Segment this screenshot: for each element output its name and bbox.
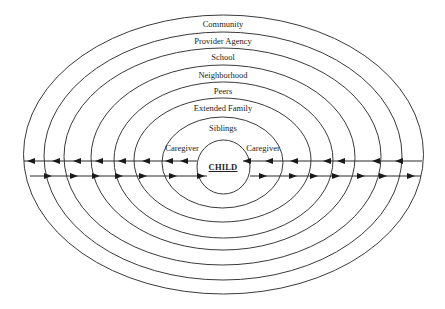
arrow-right-icon (379, 173, 387, 179)
arrow-right-icon (259, 173, 267, 179)
arrow-right-icon (289, 173, 297, 179)
arrow-left-icon (323, 158, 331, 164)
arrow-right-icon (407, 173, 415, 179)
arrow-left-icon (290, 158, 298, 164)
label-neighborhood: Neighborhood (198, 71, 247, 80)
arrow-left-icon (265, 158, 273, 164)
label-peers: Peers (214, 87, 232, 96)
arrow-right-icon (357, 173, 365, 179)
arrow-left-icon (95, 158, 103, 164)
arrow-left-icon (27, 158, 35, 164)
arrow-left-icon (395, 158, 403, 164)
arrow-right-icon (44, 173, 52, 179)
flow-left-inward (24, 158, 197, 164)
arrow-left-icon (243, 158, 251, 164)
arrow-left-icon (165, 158, 173, 164)
arrow-right-icon (115, 173, 123, 179)
arrow-left-icon (73, 158, 81, 164)
flow-left-outward (30, 173, 207, 179)
arrow-left-icon (337, 158, 345, 164)
arrow-right-icon (92, 173, 100, 179)
label-caregiver-right: Caregiver (246, 144, 280, 153)
label-child: CHILD (209, 163, 238, 172)
ring-neighborhood (64, 48, 381, 265)
arrow-left-icon (372, 158, 380, 164)
arrow-right-icon (310, 173, 318, 179)
flow-right-outward (250, 173, 421, 179)
arrow-right-icon (169, 173, 177, 179)
arrow-left-icon (52, 158, 60, 164)
arrow-left-icon (118, 158, 126, 164)
arrow-right-icon (139, 173, 147, 179)
arrow-right-icon (332, 173, 340, 179)
arrow-left-icon (142, 158, 150, 164)
label-community: Community (203, 20, 244, 29)
arrow-right-icon (197, 173, 205, 179)
label-extended-family: Extended Family (194, 104, 252, 113)
label-school: School (211, 53, 235, 62)
arrow-right-icon (70, 173, 78, 179)
label-caregiver-left: Caregiver (165, 144, 199, 153)
arrow-left-icon (180, 158, 188, 164)
ecological-rings-diagram (0, 0, 445, 309)
label-provider-agency: Provider Agency (194, 37, 251, 46)
label-siblings: Siblings (209, 124, 237, 133)
